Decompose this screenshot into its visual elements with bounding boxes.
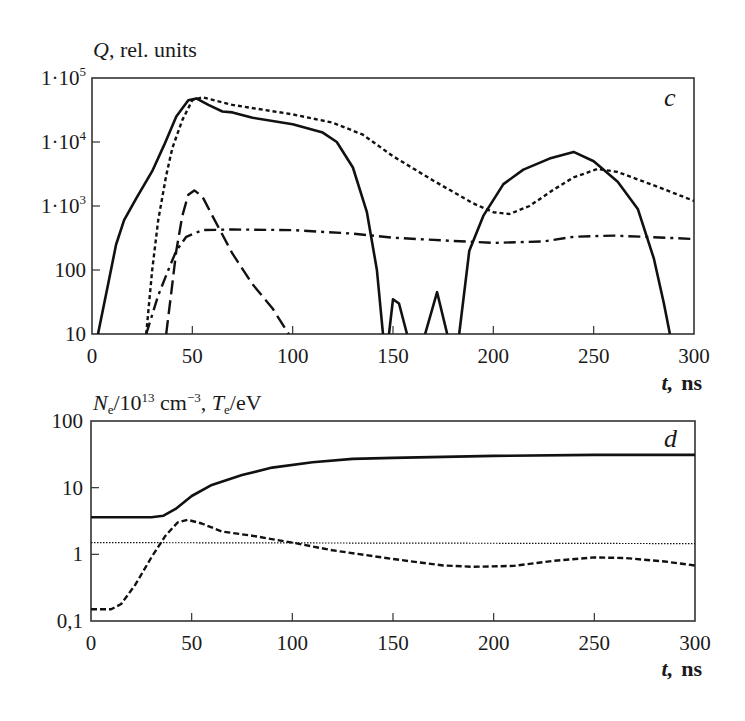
x-tick-label: 250 [579, 631, 611, 655]
y-tick-label: 0,1 [57, 609, 83, 633]
series-dotted-reference-line [91, 543, 695, 544]
bottom-x-axis-title: t,ns [662, 656, 703, 681]
y-tick-label: 10 [62, 476, 83, 500]
series-long-dashed-line [166, 190, 289, 334]
y-tick-label: 1·103 [41, 192, 86, 218]
top-series [98, 97, 694, 334]
figure: Q, rel. units 1·1051·1041·10310010 05010… [0, 0, 745, 721]
x-tick-label: 300 [678, 344, 710, 368]
x-tick-label: 0 [86, 631, 97, 655]
bottom-x-ticks: 050100150200250300 [86, 613, 711, 655]
bottom-y-ticks: 1001010,1 [52, 409, 100, 633]
series-solid-line [389, 299, 407, 334]
panel-letter-d: d [664, 424, 678, 453]
top-y-ticks: 1·1051·1041·10310010 [41, 64, 100, 346]
top-x-ticks: 050100150200250300 [87, 326, 710, 368]
panel-c: Q, rel. units 1·1051·1041·10310010 05010… [41, 37, 710, 395]
x-tick-label: 300 [679, 631, 711, 655]
y-tick-label: 100 [52, 409, 84, 433]
x-tick-label: 200 [478, 344, 510, 368]
x-tick-label: 50 [182, 344, 203, 368]
x-tick-label: 0 [87, 344, 98, 368]
series-dashed-line [91, 520, 695, 610]
x-tick-label: 200 [478, 631, 510, 655]
y-tick-label: 1·105 [41, 64, 86, 90]
bottom-series [91, 455, 695, 609]
series-solid-line [425, 292, 447, 334]
top-plot-frame [92, 78, 694, 334]
x-tick-label: 100 [277, 631, 309, 655]
series-solid-line [459, 152, 670, 334]
x-tick-label: 150 [377, 344, 409, 368]
panel-d: Ne/1013 cm−3, Te/eV 1001010,1 0501001502… [52, 390, 711, 681]
series-short-dashed-line [146, 97, 694, 334]
series-solid-line [98, 98, 383, 334]
x-tick-label: 150 [377, 631, 409, 655]
x-tick-label: 100 [277, 344, 309, 368]
series-solid-line [91, 455, 695, 517]
y-tick-label: 100 [55, 258, 87, 282]
panel-letter-c: c [664, 83, 676, 112]
y-tick-label: 1 [73, 542, 84, 566]
y-tick-label: 1·104 [41, 128, 87, 154]
x-tick-label: 250 [578, 344, 610, 368]
top-x-axis-title: t,ns [662, 370, 703, 395]
x-tick-label: 50 [181, 631, 202, 655]
bottom-y-axis-title: Ne/1013 cm−3, Te/eV [92, 390, 262, 417]
y-tick-label: 10 [65, 322, 86, 346]
top-y-axis-title: Q, rel. units [93, 37, 197, 62]
